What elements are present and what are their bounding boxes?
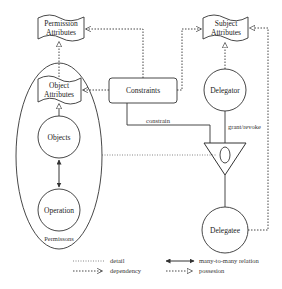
grant-revoke-label: grant/revoke xyxy=(228,123,261,130)
svg-text:Constraints: Constraints xyxy=(126,86,160,95)
svg-text:Attributes: Attributes xyxy=(211,28,241,37)
svg-text:Attributes: Attributes xyxy=(44,90,74,99)
svg-text:possesion: possesion xyxy=(199,267,225,274)
permissions-label: Permissons xyxy=(44,235,74,242)
svg-text:Delegatee: Delegatee xyxy=(210,226,241,235)
legend: detail dependency many-to-many relation … xyxy=(73,257,259,274)
delegator-node: Delegator xyxy=(204,69,246,111)
objects-node: Objects xyxy=(38,116,80,158)
object-attributes-node: Object Attributes xyxy=(38,76,81,104)
legend-many-to-many: many-to-many relation xyxy=(166,257,259,264)
svg-text:Subject: Subject xyxy=(215,19,238,28)
svg-text:Attributes: Attributes xyxy=(46,28,76,37)
legend-dependency: dependency xyxy=(73,267,142,274)
svg-text:Objects: Objects xyxy=(48,133,71,142)
delegation-model-diagram: Permissons Permission Attributes Object … xyxy=(0,0,282,289)
edge-constraints-to-permattr xyxy=(86,29,143,78)
constrain-label: constrain xyxy=(146,117,171,124)
svg-text:Delegator: Delegator xyxy=(210,86,240,95)
svg-text:dependency: dependency xyxy=(110,267,142,274)
delegation-triangle xyxy=(204,143,246,175)
subject-attributes-node: Subject Attributes xyxy=(203,15,248,41)
permission-attributes-node: Permission Attributes xyxy=(38,15,84,41)
svg-text:detail: detail xyxy=(110,257,125,264)
svg-text:Operation: Operation xyxy=(44,206,74,215)
svg-text:Object: Object xyxy=(49,81,70,90)
legend-possession: possesion xyxy=(166,267,225,274)
edge-constraints-to-subjattr xyxy=(177,29,201,90)
operation-node: Operation xyxy=(38,189,80,231)
svg-text:Permission: Permission xyxy=(44,19,78,28)
legend-detail: detail xyxy=(73,257,125,264)
constraints-node: Constraints xyxy=(109,78,177,103)
svg-text:many-to-many relation: many-to-many relation xyxy=(199,257,259,264)
delegatee-node: Delegatee xyxy=(202,207,248,253)
